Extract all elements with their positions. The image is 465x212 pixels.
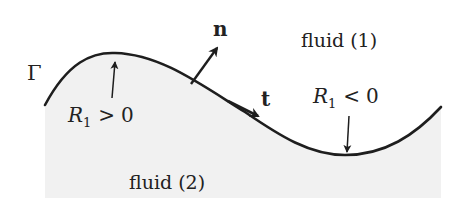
tangent-vector-label: t	[261, 87, 271, 111]
fluid-1-label: fluid (1)	[301, 29, 377, 51]
normal-vector-arrow	[191, 48, 217, 84]
interface-label: Γ	[27, 61, 42, 85]
fluid-2-label: fluid (2)	[129, 171, 205, 193]
fluid-interface-diagram: Γ n t fluid (1) fluid (2) R1>0 R1<0	[0, 0, 465, 212]
positive-curvature-label: R1>0	[67, 103, 134, 130]
negative-curvature-label: R1<0	[312, 84, 379, 111]
normal-vector-label: n	[213, 17, 228, 41]
negative-curvature-arrow	[347, 116, 349, 152]
